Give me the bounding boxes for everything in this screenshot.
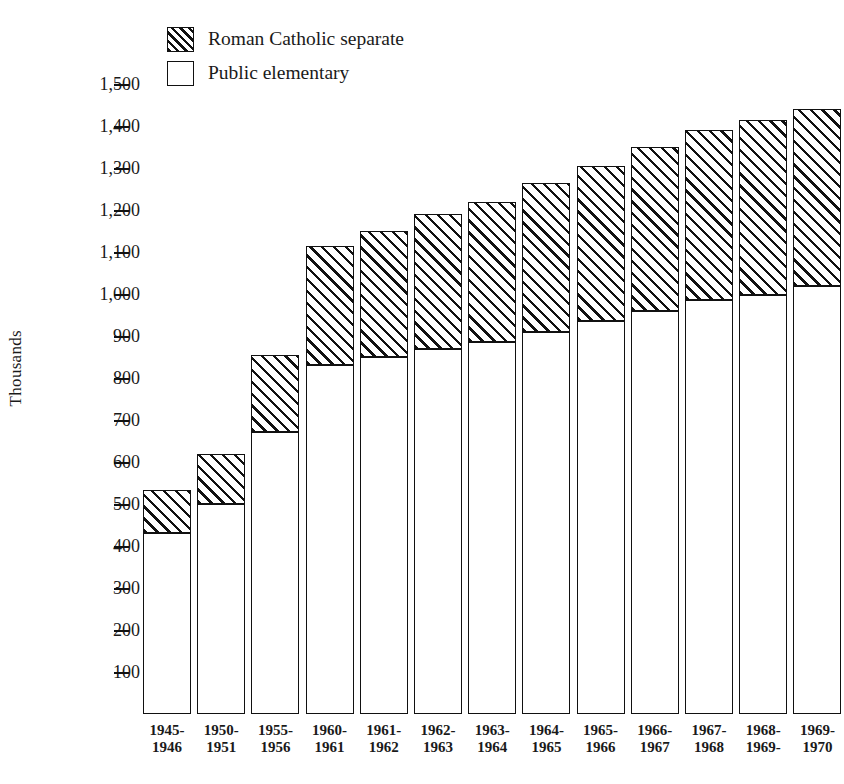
x-axis-tick-label-line: 1964- bbox=[518, 722, 574, 739]
x-axis-tick-label-line: 1965 bbox=[518, 739, 574, 756]
bar-stack bbox=[468, 202, 516, 714]
bar-segment-public-elementary bbox=[793, 286, 841, 714]
x-axis-tick-label-line: 1956 bbox=[247, 739, 303, 756]
x-axis-tick-label: 1968-1969- bbox=[735, 722, 791, 756]
y-axis-tick-mark bbox=[114, 672, 129, 674]
y-axis-tick-mark bbox=[114, 588, 129, 590]
bar-segment-public-elementary bbox=[143, 533, 191, 714]
x-axis-tick-label-line: 1961 bbox=[302, 739, 358, 756]
bar-segment-roman-catholic-separate bbox=[685, 130, 733, 300]
x-axis-tick-label-line: 1966 bbox=[573, 739, 629, 756]
x-axis-tick-label-line: 1964 bbox=[464, 739, 520, 756]
bar-segment-roman-catholic-separate bbox=[739, 120, 787, 296]
x-axis-tick-label: 1962-1963 bbox=[410, 722, 466, 756]
y-axis-tick-mark bbox=[114, 630, 129, 632]
bar-stack bbox=[793, 109, 841, 714]
x-axis-tick-label: 1950-1951 bbox=[193, 722, 249, 756]
bar-stack bbox=[251, 355, 299, 714]
x-axis-tick-label-line: 1960- bbox=[302, 722, 358, 739]
x-axis-tick-label-line: 1946 bbox=[139, 739, 195, 756]
x-axis-tick-label: 1969-1970 bbox=[789, 722, 844, 756]
y-axis-tick-mark bbox=[114, 420, 129, 422]
bar-stack bbox=[197, 454, 245, 714]
stacked-bar-chart: Roman Catholic separate Public elementar… bbox=[0, 0, 844, 784]
y-axis-tick-mark bbox=[114, 84, 129, 86]
bar-segment-roman-catholic-separate bbox=[251, 355, 299, 432]
x-axis-tick-label-line: 1951 bbox=[193, 739, 249, 756]
bar-stack bbox=[143, 490, 191, 714]
x-axis-tick-label-line: 1961- bbox=[356, 722, 412, 739]
bar-segment-public-elementary bbox=[631, 311, 679, 714]
x-axis-tick-label: 1945-1946 bbox=[139, 722, 195, 756]
x-axis-tick-label: 1967-1968 bbox=[681, 722, 737, 756]
y-axis-tick-mark bbox=[114, 252, 129, 254]
x-axis-tick-label: 1966-1967 bbox=[627, 722, 683, 756]
bar-stack bbox=[306, 246, 354, 714]
bar-segment-roman-catholic-separate bbox=[360, 231, 408, 357]
x-axis-tick-label-line: 1968 bbox=[681, 739, 737, 756]
bar-segment-public-elementary bbox=[306, 365, 354, 714]
x-axis-tick-label-line: 1966- bbox=[627, 722, 683, 739]
x-axis-tick-label: 1965-1966 bbox=[573, 722, 629, 756]
x-axis-tick-label: 1960-1961 bbox=[302, 722, 358, 756]
x-axis-tick-label-line: 1963- bbox=[464, 722, 520, 739]
bar-segment-roman-catholic-separate bbox=[631, 147, 679, 311]
bar-segment-roman-catholic-separate bbox=[143, 490, 191, 533]
x-axis-tick-label-line: 1945- bbox=[139, 722, 195, 739]
y-axis-tick-mark bbox=[114, 336, 129, 338]
bar-segment-roman-catholic-separate bbox=[197, 454, 245, 504]
y-axis-tick-mark bbox=[114, 210, 129, 212]
bar-stack bbox=[522, 183, 570, 714]
x-axis-tick-label-line: 1962- bbox=[410, 722, 466, 739]
x-axis-tick-label-line: 1970 bbox=[789, 739, 844, 756]
x-axis-tick-label-line: 1969- bbox=[789, 722, 844, 739]
bar-segment-roman-catholic-separate bbox=[414, 214, 462, 349]
bar-segment-roman-catholic-separate bbox=[577, 166, 625, 321]
x-axis-tick-label: 1964-1965 bbox=[518, 722, 574, 756]
bar-stack bbox=[414, 214, 462, 714]
bar-segment-public-elementary bbox=[522, 332, 570, 714]
bar-stack bbox=[631, 147, 679, 714]
bar-stack bbox=[360, 231, 408, 714]
bar-segment-public-elementary bbox=[414, 349, 462, 714]
y-axis-tick-mark bbox=[114, 504, 129, 506]
bar-stack bbox=[577, 166, 625, 714]
bar-segment-roman-catholic-separate bbox=[306, 246, 354, 366]
bar-segment-public-elementary bbox=[360, 357, 408, 714]
x-axis-tick-label-line: 1968- bbox=[735, 722, 791, 739]
bar-segment-roman-catholic-separate bbox=[793, 109, 841, 285]
x-axis-tick-label: 1961-1962 bbox=[356, 722, 412, 756]
bar-segment-public-elementary bbox=[251, 432, 299, 714]
y-axis-tick-mark bbox=[114, 126, 129, 128]
bar-stack bbox=[685, 130, 733, 714]
x-axis-tick-label-line: 1963 bbox=[410, 739, 466, 756]
y-axis-tick-mark bbox=[114, 546, 129, 548]
bar-stack bbox=[739, 120, 787, 714]
bar-segment-public-elementary bbox=[739, 295, 787, 714]
y-axis-tick-mark bbox=[114, 378, 129, 380]
plot-area: 1002003004005006007008009001,0001,1001,2… bbox=[0, 0, 844, 784]
x-axis-tick-label: 1963-1964 bbox=[464, 722, 520, 756]
x-axis-tick-label-line: 1967 bbox=[627, 739, 683, 756]
x-axis-tick-label-line: 1965- bbox=[573, 722, 629, 739]
bar-segment-public-elementary bbox=[197, 504, 245, 714]
x-axis-tick-label-line: 1955- bbox=[247, 722, 303, 739]
x-axis-tick-label-line: 1962 bbox=[356, 739, 412, 756]
x-axis-tick-label-line: 1967- bbox=[681, 722, 737, 739]
x-axis-tick-label-line: 1969- bbox=[735, 739, 791, 756]
bar-segment-public-elementary bbox=[468, 342, 516, 714]
y-axis-tick-mark bbox=[114, 294, 129, 296]
bar-segment-roman-catholic-separate bbox=[468, 202, 516, 343]
bar-segment-public-elementary bbox=[577, 321, 625, 714]
bar-segment-roman-catholic-separate bbox=[522, 183, 570, 332]
y-axis-tick-mark bbox=[114, 168, 129, 170]
x-axis-tick-label: 1955-1956 bbox=[247, 722, 303, 756]
y-axis-tick-mark bbox=[114, 462, 129, 464]
x-axis-tick-label-line: 1950- bbox=[193, 722, 249, 739]
bar-segment-public-elementary bbox=[685, 300, 733, 714]
